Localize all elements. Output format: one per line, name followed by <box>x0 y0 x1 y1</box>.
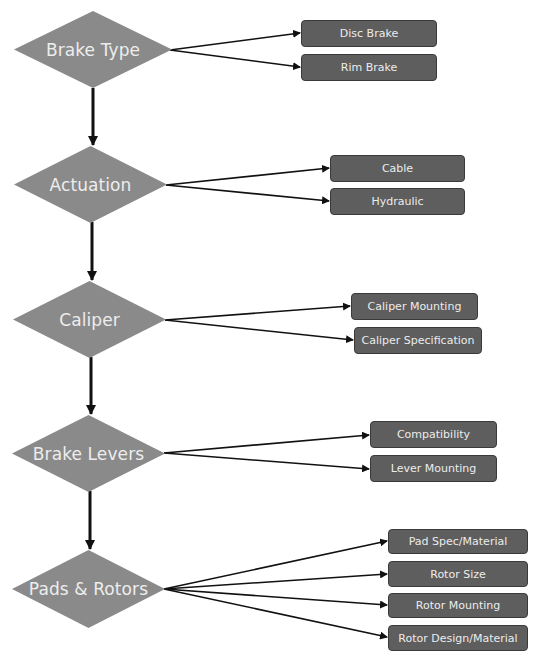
branch-arrow <box>170 50 300 67</box>
option-compatibility: Compatibility <box>370 421 497 448</box>
option-rim-brake: Rim Brake <box>301 54 437 81</box>
branch-arrow <box>170 33 300 50</box>
option-rotor-design-material: Rotor Design/Material <box>388 625 528 651</box>
decision-label: Caliper <box>13 281 166 358</box>
decision-label: Pads & Rotors <box>12 550 165 628</box>
branch-arrow <box>164 435 369 453</box>
decision-brake-levers: Brake Levers <box>12 415 165 492</box>
branch-arrow <box>164 453 369 469</box>
option-caliper-mounting: Caliper Mounting <box>351 293 478 320</box>
option-rotor-mounting: Rotor Mounting <box>388 593 528 618</box>
decision-label: Brake Levers <box>12 415 165 492</box>
option-cable: Cable <box>330 155 465 182</box>
flowchart-canvas: Brake Type Actuation Caliper Brake Lever… <box>0 0 546 667</box>
option-caliper-specification: Caliper Specification <box>354 327 482 354</box>
option-rotor-size: Rotor Size <box>388 561 528 587</box>
option-hydraulic: Hydraulic <box>330 188 465 215</box>
branch-arrow <box>166 185 329 201</box>
option-lever-mounting: Lever Mounting <box>370 455 497 482</box>
decision-pads-rotors: Pads & Rotors <box>12 550 165 628</box>
branch-arrow <box>166 168 329 185</box>
decision-actuation: Actuation <box>14 146 167 223</box>
decision-caliper: Caliper <box>13 281 166 358</box>
branch-arrow <box>165 306 350 320</box>
option-disc-brake: Disc Brake <box>301 20 437 47</box>
decision-brake-type: Brake Type <box>14 11 172 88</box>
option-pad-spec-material: Pad Spec/Material <box>388 529 528 554</box>
decision-label: Brake Type <box>14 11 172 88</box>
branch-arrow <box>165 320 353 340</box>
decision-label: Actuation <box>14 146 167 223</box>
